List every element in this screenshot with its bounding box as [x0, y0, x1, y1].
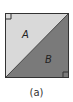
region-a-label: A [22, 30, 29, 40]
figure-caption: (a) [0, 88, 73, 98]
square-svg [5, 13, 69, 78]
region-b-label: B [45, 55, 52, 65]
square-diagram [5, 13, 69, 78]
